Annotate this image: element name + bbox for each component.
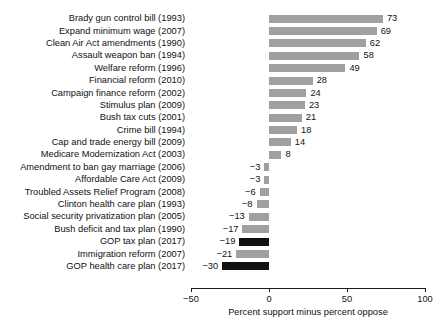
category-label: Campaign finance reform (2002) <box>0 87 185 99</box>
bar-value-label: −21 <box>216 248 232 260</box>
chart-row: Troubled Assets Relief Program (2008)−6 <box>0 186 439 198</box>
category-label: Brady gun control bill (1993) <box>0 12 185 24</box>
chart-bar <box>257 200 269 208</box>
chart-row: Assault weapon ban (1994)58 <box>0 49 439 61</box>
chart-bar <box>269 77 313 85</box>
chart-row: Affordable Care Act (2009)−3 <box>0 173 439 185</box>
bar-value-label: 18 <box>301 124 311 136</box>
category-label: GOP health care plan (2017) <box>0 260 185 272</box>
chart-plot-area: Brady gun control bill (1993)73Expand mi… <box>0 12 439 272</box>
bar-value-label: −13 <box>229 210 245 222</box>
category-label: Affordable Care Act (2009) <box>0 173 185 185</box>
category-label: Social security privatization plan (2005… <box>0 210 185 222</box>
bar-value-label: 14 <box>295 136 305 148</box>
bar-value-label: −3 <box>250 161 261 173</box>
chart-row: Bush deficit and tax plan (1990)−17 <box>0 223 439 235</box>
category-label: Amendment to ban gay marriage (2006) <box>0 161 185 173</box>
bar-value-label: 49 <box>349 62 359 74</box>
chart-bar <box>242 225 269 233</box>
x-axis-tick-label: −50 <box>183 293 199 305</box>
bar-value-label: 58 <box>363 49 373 61</box>
category-label: Welfare reform (1996) <box>0 62 185 74</box>
bar-value-label: 8 <box>285 148 290 160</box>
x-axis-tick-label: 100 <box>417 293 433 305</box>
bar-value-label: 23 <box>309 99 319 111</box>
category-label: Bush tax cuts (2001) <box>0 111 185 123</box>
category-label: Expand minimum wage (2007) <box>0 25 185 37</box>
chart-bar <box>269 114 302 122</box>
category-label: Clean Air Act amendments (1990) <box>0 37 185 49</box>
chart-row: Immigration reform (2007)−21 <box>0 248 439 260</box>
chart-bar <box>249 213 269 221</box>
category-label: Stimulus plan (2009) <box>0 99 185 111</box>
chart-bar <box>269 138 291 146</box>
x-axis-tick <box>269 288 270 292</box>
chart-row: Amendment to ban gay marriage (2006)−3 <box>0 161 439 173</box>
chart-row: Bush tax cuts (2001)21 <box>0 111 439 123</box>
category-label: Clinton health care plan (1993) <box>0 198 185 210</box>
bar-value-label: −30 <box>202 260 218 272</box>
chart-bar <box>269 27 377 35</box>
chart-bar <box>269 52 359 60</box>
category-label: Troubled Assets Relief Program (2008) <box>0 186 185 198</box>
chart-row: Expand minimum wage (2007)69 <box>0 25 439 37</box>
category-label: Financial reform (2010) <box>0 74 185 86</box>
bar-value-label: 69 <box>381 25 391 37</box>
bar-value-label: −8 <box>242 198 253 210</box>
bar-value-label: 62 <box>370 37 380 49</box>
x-axis-tick <box>347 288 348 292</box>
chart-row: GOP health care plan (2017)−30 <box>0 260 439 272</box>
chart-bar <box>269 15 383 23</box>
bar-chart: Brady gun control bill (1993)73Expand mi… <box>0 0 439 332</box>
x-axis-tick <box>191 288 192 292</box>
chart-bar <box>264 163 269 171</box>
x-axis-tick-label: 0 <box>266 293 271 305</box>
bar-value-label: 21 <box>306 111 316 123</box>
chart-bar <box>269 151 281 159</box>
chart-bar <box>222 262 269 270</box>
chart-bar <box>239 238 269 246</box>
bar-value-label: 73 <box>387 12 397 24</box>
chart-row: GOP tax plan (2017)−19 <box>0 235 439 247</box>
bar-value-label: 28 <box>317 74 327 86</box>
chart-bar <box>264 176 269 184</box>
chart-bar <box>269 126 297 134</box>
chart-row: Brady gun control bill (1993)73 <box>0 12 439 24</box>
chart-row: Crime bill (1994)18 <box>0 124 439 136</box>
bar-value-label: −3 <box>250 173 261 185</box>
chart-row: Financial reform (2010)28 <box>0 74 439 86</box>
bar-value-label: −17 <box>223 223 239 235</box>
bar-value-label: 24 <box>310 87 320 99</box>
bar-value-label: −19 <box>220 235 236 247</box>
chart-bar <box>269 101 305 109</box>
category-label: Immigration reform (2007) <box>0 248 185 260</box>
x-axis-line <box>191 288 425 289</box>
chart-row: Clinton health care plan (1993)−8 <box>0 198 439 210</box>
chart-bar <box>260 188 269 196</box>
chart-bar <box>269 39 366 47</box>
category-label: Crime bill (1994) <box>0 124 185 136</box>
category-label: Assault weapon ban (1994) <box>0 49 185 61</box>
category-label: Medicare Modernization Act (2003) <box>0 148 185 160</box>
chart-row: Welfare reform (1996)49 <box>0 62 439 74</box>
category-label: Bush deficit and tax plan (1990) <box>0 223 185 235</box>
chart-bar <box>269 89 306 97</box>
x-axis-title: Percent support minus percent oppose <box>191 307 425 317</box>
x-axis-tick-label: 50 <box>342 293 352 305</box>
bar-value-label: −6 <box>245 186 256 198</box>
chart-row: Clean Air Act amendments (1990)62 <box>0 37 439 49</box>
chart-bar <box>269 64 345 72</box>
chart-row: Campaign finance reform (2002)24 <box>0 87 439 99</box>
chart-row: Medicare Modernization Act (2003)8 <box>0 148 439 160</box>
chart-row: Stimulus plan (2009)23 <box>0 99 439 111</box>
chart-row: Cap and trade energy bill (2009)14 <box>0 136 439 148</box>
chart-bar <box>236 250 269 258</box>
category-label: Cap and trade energy bill (2009) <box>0 136 185 148</box>
x-axis-tick <box>425 288 426 292</box>
category-label: GOP tax plan (2017) <box>0 235 185 247</box>
chart-row: Social security privatization plan (2005… <box>0 210 439 222</box>
